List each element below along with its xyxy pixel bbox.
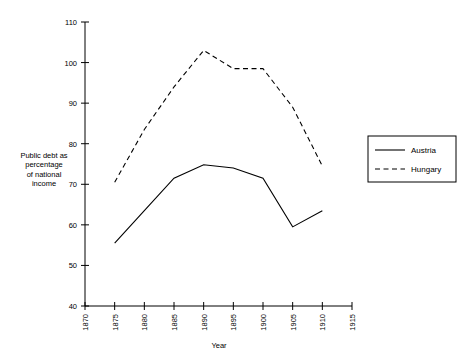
x-tick-label: 1900 (259, 314, 268, 331)
public-debt-line-chart: 1870187518801885189018951900190519101915… (0, 0, 464, 361)
chart-container: 1870187518801885189018951900190519101915… (0, 0, 464, 361)
x-axis-title: Year (211, 341, 227, 350)
x-axis-tick-labels: 1870187518801885189018951900190519101915 (81, 314, 357, 331)
x-tick-label: 1890 (200, 314, 209, 331)
x-tick-label: 1915 (348, 314, 357, 331)
legend-label-hungary: Hungary (411, 165, 441, 174)
y-axis-title-line: of national (27, 170, 62, 179)
y-tick-label: 60 (69, 221, 77, 230)
series-line-austria (115, 165, 323, 243)
y-axis-title-line: income (32, 179, 56, 188)
y-axis-tick-labels: 405060708090100110 (64, 18, 77, 311)
y-tick-label: 100 (64, 59, 77, 68)
y-tick-label: 50 (69, 261, 77, 270)
y-tick-label: 70 (69, 180, 77, 189)
y-tick-label: 110 (65, 18, 77, 27)
x-tick-label: 1880 (140, 314, 149, 331)
series-line-hungary (115, 50, 323, 182)
x-tick-label: 1905 (289, 314, 298, 331)
y-axis-title-line: percentage (25, 160, 63, 169)
y-tick-label: 40 (69, 302, 77, 311)
y-tick-label: 80 (69, 140, 77, 149)
x-tick-label: 1885 (170, 314, 179, 331)
x-tick-label: 1875 (111, 314, 120, 331)
y-tick-label: 90 (69, 99, 77, 108)
data-series (115, 50, 323, 243)
y-axis-title-line: Public debt as (20, 151, 67, 160)
x-tick-label: 1910 (318, 314, 327, 331)
x-tick-label: 1895 (229, 314, 238, 331)
legend-border (368, 136, 456, 182)
x-tick-label: 1870 (81, 314, 90, 331)
legend-label-austria: Austria (411, 146, 436, 155)
chart-legend: AustriaHungary (368, 136, 456, 182)
y-axis-title: Public debt aspercentageof nationalincom… (20, 151, 67, 189)
